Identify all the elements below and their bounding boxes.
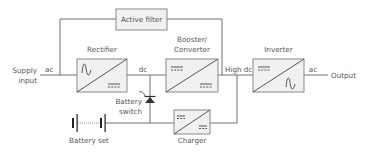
supply-input-label-line2: input — [19, 76, 38, 85]
battery-set-label: Battery set — [69, 136, 109, 145]
booster-converter-block: Booster/ Converter — [166, 35, 218, 92]
charger-label: Charger — [178, 136, 207, 145]
active-filter-label: Active filter — [121, 15, 162, 24]
output-ac-label: ac — [309, 65, 317, 74]
inverter-block: Inverter — [253, 45, 304, 92]
battery-switch-label-line2: switch — [119, 107, 142, 116]
battery-icon — [72, 114, 106, 132]
battery-switch: Battery switch — [115, 92, 155, 116]
output-label: Output — [331, 71, 356, 80]
rectifier-block: Rectifier — [77, 45, 127, 92]
ups-block-diagram: Active filter Rectifier Booster/ Convert… — [0, 0, 367, 158]
inverter-label: Inverter — [264, 45, 293, 54]
charger-block: Charger — [174, 110, 210, 145]
high-dc-label: High dc — [225, 65, 252, 74]
battery-switch-label-line1: Battery — [115, 97, 142, 106]
rectifier-dc-label: dc — [139, 65, 148, 74]
booster-label-line1: Booster/ — [177, 35, 208, 44]
booster-label-line2: Converter — [174, 45, 210, 54]
rectifier-label: Rectifier — [87, 45, 117, 54]
active-filter-block: Active filter — [116, 9, 167, 30]
battery-set: Battery set — [69, 114, 109, 145]
input-ac-label: ac — [45, 65, 53, 74]
supply-input-label-line1: Supply — [13, 66, 38, 75]
